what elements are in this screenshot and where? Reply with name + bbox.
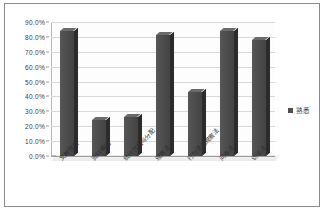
y-axis-tick-mark	[46, 22, 49, 23]
y-axis-tick-label: 30.0%	[25, 108, 45, 115]
y-axis-tick-label: 10.0%	[25, 138, 45, 145]
bar-side-face	[234, 28, 238, 156]
bar-front-face	[156, 35, 169, 156]
legend-swatch-shuxi	[288, 108, 293, 113]
plot-area	[51, 22, 275, 156]
legend-label-shuxi: 熟悉	[296, 105, 310, 115]
y-axis-tick-mark	[46, 96, 49, 97]
y-axis-tick-mark	[46, 126, 49, 127]
y-axis-tick-label: 70.0%	[25, 48, 45, 55]
y-axis: 90.0%80.0%70.0%60.0%50.0%40.0%30.0%20.0%…	[5, 22, 49, 156]
bar-side-face	[170, 32, 174, 156]
y-axis-tick-label: 40.0%	[25, 93, 45, 100]
y-axis-tick-mark	[46, 156, 49, 157]
y-axis-tick-mark	[46, 81, 49, 82]
bar-front-face	[60, 31, 73, 156]
bar-side-face	[74, 28, 78, 156]
bar	[252, 40, 265, 156]
y-axis-tick-mark	[46, 51, 49, 52]
bar-series-shuxi	[51, 22, 275, 156]
bar	[156, 35, 169, 156]
y-axis-tick-label: 0.0%	[29, 153, 45, 160]
y-axis-tick-label: 90.0%	[25, 19, 45, 26]
y-axis-tick-label: 80.0%	[25, 33, 45, 40]
y-axis-tick-mark	[46, 36, 49, 37]
bar	[220, 31, 233, 156]
bar-side-face	[266, 37, 270, 156]
x-axis-labels: 文献搜索资料编码统计分组与分配观察法行为活动观察法问卷法访谈法	[51, 156, 281, 208]
y-axis-tick-label: 60.0%	[25, 63, 45, 70]
chart-frame: 90.0%80.0%70.0%60.0%50.0%40.0%30.0%20.0%…	[4, 3, 320, 207]
y-axis-tick-mark	[46, 111, 49, 112]
chart-legend: 熟悉	[288, 105, 310, 115]
bar-front-face	[252, 40, 265, 156]
y-axis-tick-mark	[46, 141, 49, 142]
bar	[60, 31, 73, 156]
y-axis-tick-label: 50.0%	[25, 78, 45, 85]
y-axis-tick-label: 20.0%	[25, 123, 45, 130]
bar-front-face	[220, 31, 233, 156]
y-axis-tick-mark	[46, 66, 49, 67]
